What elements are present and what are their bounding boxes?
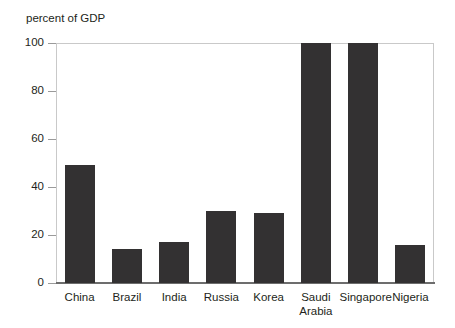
y-axis-tick xyxy=(48,235,56,236)
y-axis-tick-label: 0 xyxy=(0,276,44,288)
chart-title: percent of GDP xyxy=(26,11,105,25)
y-axis-tick-label: 80 xyxy=(0,84,44,96)
x-axis-category-label: India xyxy=(151,290,198,304)
y-axis-tick-label-text: 100 xyxy=(2,36,44,48)
x-axis-category-label: Brazil xyxy=(103,290,150,304)
bars-group xyxy=(56,43,434,283)
bar[interactable] xyxy=(301,43,331,283)
bar[interactable] xyxy=(65,165,95,283)
y-axis-tick xyxy=(48,43,56,44)
y-axis-tick-label: 40 xyxy=(0,180,44,192)
bar[interactable] xyxy=(112,249,142,283)
y-axis-tick xyxy=(48,139,56,140)
bar[interactable] xyxy=(348,43,378,283)
x-axis-category-label: Saudi Arabia xyxy=(292,290,339,318)
bar[interactable] xyxy=(254,213,284,283)
x-axis-category-label: Korea xyxy=(245,290,292,304)
y-axis-tick xyxy=(48,283,56,284)
y-axis-tick-label: 60 xyxy=(0,132,44,144)
y-axis-tick xyxy=(48,91,56,92)
bar[interactable] xyxy=(206,211,236,283)
x-axis-category-label: Singapore xyxy=(340,290,387,304)
y-axis-tick-label-text: 40 xyxy=(2,180,44,192)
y-axis-tick-label-text: 20 xyxy=(2,228,44,240)
y-axis-tick-label-text: 0 xyxy=(2,276,44,288)
y-axis-tick-label: 100 xyxy=(0,36,44,48)
bar[interactable] xyxy=(159,242,189,283)
bar[interactable] xyxy=(395,245,425,283)
x-axis-category-label: Nigeria xyxy=(387,290,434,304)
y-axis-tick-label-text: 60 xyxy=(2,132,44,144)
y-axis-tick-label-text: 80 xyxy=(2,84,44,96)
x-axis-category-label: Russia xyxy=(198,290,245,304)
bar-chart: percent of GDP 020406080100 ChinaBrazilI… xyxy=(0,0,455,328)
x-axis-category-label: China xyxy=(56,290,103,304)
y-axis-tick xyxy=(48,187,56,188)
y-axis-tick-label: 20 xyxy=(0,228,44,240)
